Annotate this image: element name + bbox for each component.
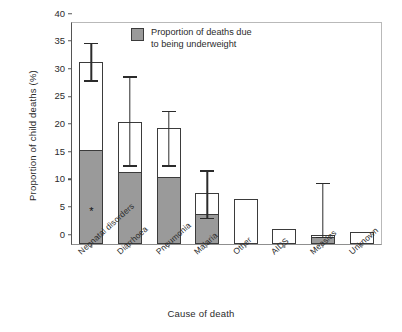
y-axis-tick-mark — [68, 41, 72, 42]
error-bar-line — [91, 43, 92, 81]
error-bar-line — [168, 111, 169, 166]
y-axis-tick: 15 — [54, 147, 72, 157]
bar-group — [350, 23, 374, 244]
error-bar-line — [322, 183, 323, 237]
error-bar-cap-upper — [316, 183, 330, 184]
y-axis-tick-mark — [68, 234, 72, 235]
error-bar-cap-upper — [200, 170, 214, 171]
error-bar-cap-lower — [162, 165, 176, 166]
y-axis-tick-label: 35 — [54, 36, 68, 46]
y-axis-tick-label: 30 — [54, 64, 68, 74]
legend-swatch-underweight — [131, 28, 144, 41]
y-axis-tick: 25 — [54, 92, 72, 102]
y-axis-tick-label: 5 — [60, 202, 68, 212]
error-bar-cap-upper — [123, 76, 137, 77]
y-axis-tick-label: 25 — [54, 92, 68, 102]
chart-figure: Proportion of child deaths (%) 051015202… — [0, 0, 402, 332]
y-axis-tick: 35 — [54, 36, 72, 46]
y-axis-tick: 30 — [54, 64, 72, 74]
y-axis-tick: 0 — [60, 230, 72, 240]
y-axis-tick: 40 — [54, 9, 72, 19]
chart-legend: Proportion of deaths due to being underw… — [131, 27, 252, 50]
legend-label-line2: to being underweight — [151, 39, 236, 49]
y-axis-tick-mark — [68, 123, 72, 124]
bar-group: * — [79, 23, 103, 244]
bar-group — [234, 23, 258, 244]
bar-group — [311, 23, 335, 244]
error-bar-cap-lower — [200, 218, 214, 219]
y-axis-tick-mark — [68, 151, 72, 152]
error-bar-cap-lower — [123, 165, 137, 166]
y-axis-tick-mark — [68, 179, 72, 180]
y-axis-tick: 20 — [54, 119, 72, 129]
bar-group — [195, 23, 219, 244]
y-axis-tick-label: 0 — [60, 230, 68, 240]
bar-group — [157, 23, 181, 244]
y-axis-tick-label: 10 — [54, 175, 68, 185]
y-axis-tick-label: 40 — [54, 9, 68, 19]
error-bar-cap-lower — [84, 80, 98, 81]
y-axis-title: Proportion of child deaths (%) — [27, 26, 38, 246]
y-axis-tick-mark — [68, 13, 72, 14]
legend-label-line1: Proportion of deaths due — [151, 27, 252, 37]
legend-label-underweight: Proportion of deaths due to being underw… — [151, 27, 252, 50]
bar-group — [272, 23, 296, 244]
y-axis-tick-mark — [68, 68, 72, 69]
error-bar-line — [206, 171, 207, 219]
y-axis-tick-mark — [68, 96, 72, 97]
error-bar-line — [129, 77, 130, 166]
error-bar-cap-upper — [162, 111, 176, 112]
y-axis-tick: 5 — [60, 202, 72, 212]
y-axis-tick-mark — [68, 206, 72, 207]
x-axis-title: Cause of death — [0, 308, 402, 319]
y-axis-tick: 10 — [54, 175, 72, 185]
error-bar-cap-upper — [84, 43, 98, 44]
y-axis-tick-label: 20 — [54, 119, 68, 129]
y-axis-tick-label: 15 — [54, 147, 68, 157]
